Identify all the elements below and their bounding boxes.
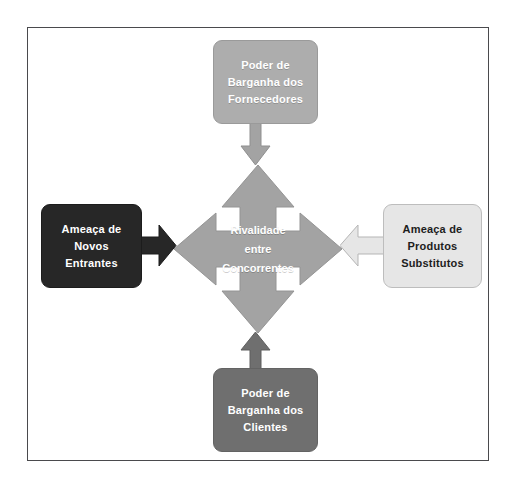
node-customers-line-2: Barganha dos xyxy=(228,402,304,419)
node-substitutes-line-2: Produtos xyxy=(408,238,458,255)
connector-suppliers-down-arrow xyxy=(240,122,271,166)
node-customers-line-3: Clientes xyxy=(243,419,287,436)
node-threat-substitute-products[interactable]: Ameaça de Produtos Substitutos xyxy=(383,204,482,288)
node-entrants-line-3: Entrantes xyxy=(65,255,118,272)
node-customers-line-1: Poder de xyxy=(241,385,290,402)
node-entrants-line-2: Novos xyxy=(74,238,109,255)
node-substitutes-line-1: Ameaça de xyxy=(403,221,463,238)
node-substitutes-line-3: Substitutos xyxy=(401,255,464,272)
node-entrants-line-1: Ameaça de xyxy=(62,221,122,238)
connector-substitutes-left-arrow xyxy=(340,223,385,268)
node-suppliers-line-2: Barganha dos xyxy=(228,74,304,91)
node-bargaining-power-customers[interactable]: Poder de Barganha dos Clientes xyxy=(213,368,318,452)
node-threat-new-entrants[interactable]: Ameaça de Novos Entrantes xyxy=(41,204,142,288)
diagram-canvas: Poder de Barganha dos Fornecedores Poder… xyxy=(0,0,516,491)
node-suppliers-line-1: Poder de xyxy=(241,57,290,74)
connector-customers-up-arrow xyxy=(240,332,271,372)
center-four-way-arrow-icon xyxy=(172,163,344,335)
node-bargaining-power-suppliers[interactable]: Poder de Barganha dos Fornecedores xyxy=(213,40,318,124)
node-suppliers-line-3: Fornecedores xyxy=(228,91,303,108)
